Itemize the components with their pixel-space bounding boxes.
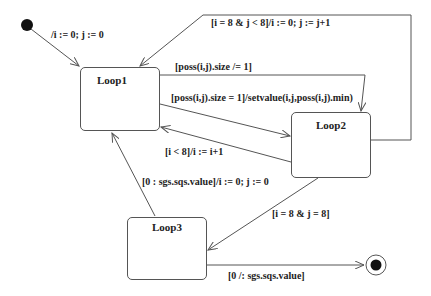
edge-loop3-to-loop1 [112,133,155,216]
label-loop3-to-loop1: [0 : sgs.sqs.value]/i := 0; j := 0 [142,176,269,188]
state-loop2-name: Loop2 [292,119,370,131]
final-state-icon [366,255,386,275]
label-loop3-to-final: [0 /: sgs.sqs.value] [228,270,305,282]
state-loop3-name: Loop3 [128,221,206,233]
state-diagram: Loop1 Loop2 Loop3 /i := 0; j := 0 [i = 8… [0,0,431,296]
state-loop2: Loop2 [291,112,371,178]
label-loop1-to-loop2-size-ne: [poss(i,j).size /= 1] [175,61,252,73]
label-loop2-to-loop3: [i = 8 & j = 8] [272,208,330,220]
edge-loop1-to-loop2-size-eq [160,104,290,136]
state-loop1: Loop1 [80,67,160,131]
state-loop1-name: Loop1 [97,74,159,86]
label-loop2-to-loop1-inc: [i < 8]/i := i+1 [165,146,223,158]
state-loop3: Loop3 [127,217,207,280]
label-loop2-to-loop1-next-row: [i = 8 & j < 8]/i := 0; j := j+1 [211,17,330,29]
label-loop1-to-loop2-size-eq: [poss(i,j).size = 1]/setvalue(i,j,poss(i… [171,92,353,104]
label-init-to-loop1: /i := 0; j := 0 [51,29,104,41]
